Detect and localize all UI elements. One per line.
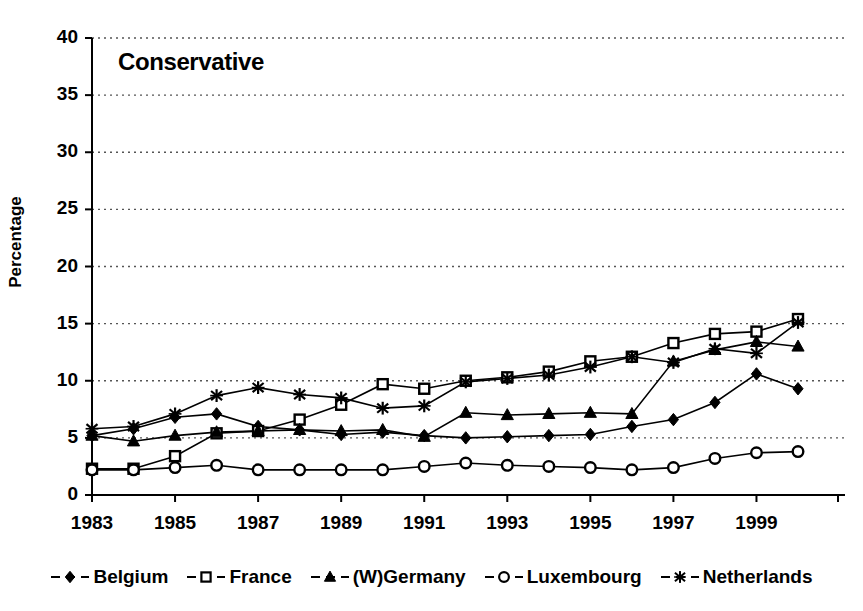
y-tick-label: 20 bbox=[34, 255, 78, 277]
legend-item-luxembourg[interactable]: Luxembourg bbox=[484, 566, 642, 588]
y-tick-label: 30 bbox=[34, 140, 78, 162]
y-tick-label: 35 bbox=[34, 83, 78, 105]
x-tick-label: 1997 bbox=[638, 512, 708, 534]
series-markers-wgermany bbox=[86, 336, 804, 446]
x-tick-label: 1985 bbox=[140, 512, 210, 534]
y-tick-label: 5 bbox=[34, 426, 78, 448]
legend-item-label: Netherlands bbox=[703, 566, 813, 588]
filled-triangle-icon bbox=[310, 568, 350, 586]
legend-item-label: France bbox=[229, 566, 291, 588]
y-tick-label: 40 bbox=[34, 26, 78, 48]
series-line-belgium bbox=[92, 374, 798, 438]
legend-item-france[interactable]: France bbox=[186, 566, 291, 588]
x-tick-label: 1987 bbox=[223, 512, 293, 534]
y-tick-label: 15 bbox=[34, 312, 78, 334]
x-tick-label: 1999 bbox=[721, 512, 791, 534]
x-tick-label: 1983 bbox=[57, 512, 127, 534]
legend-item-netherlands[interactable]: Netherlands bbox=[660, 566, 813, 588]
open-square-icon bbox=[186, 568, 226, 586]
chart-legend: BelgiumFrance(W)GermanyLuxembourgNetherl… bbox=[0, 566, 863, 588]
series-line-luxembourg bbox=[92, 452, 798, 470]
filled-diamond-icon bbox=[50, 568, 90, 586]
open-circle-icon bbox=[484, 568, 524, 586]
legend-item-belgium[interactable]: Belgium bbox=[50, 566, 168, 588]
series-markers-luxembourg bbox=[87, 446, 804, 475]
x-tick-label: 1989 bbox=[306, 512, 376, 534]
legend-item-label: (W)Germany bbox=[353, 566, 466, 588]
legend-item-label: Luxembourg bbox=[527, 566, 642, 588]
y-tick-label: 0 bbox=[34, 483, 78, 505]
y-tick-label: 10 bbox=[34, 369, 78, 391]
x-tick-label: 1991 bbox=[389, 512, 459, 534]
x-tick-label: 1993 bbox=[472, 512, 542, 534]
x-tick-label: 1995 bbox=[555, 512, 625, 534]
y-tick-label: 25 bbox=[34, 197, 78, 219]
legend-item-wgermany[interactable]: (W)Germany bbox=[310, 566, 466, 588]
chart-figure: Conservative Percentage 0510152025303540… bbox=[0, 0, 863, 611]
filled-star-icon bbox=[660, 568, 700, 586]
legend-item-label: Belgium bbox=[93, 566, 168, 588]
series-markers-netherlands bbox=[86, 316, 805, 435]
